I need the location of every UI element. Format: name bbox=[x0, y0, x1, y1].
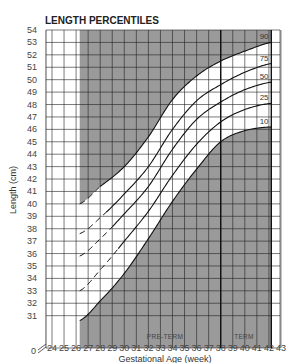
percentile-label-50: 50 bbox=[260, 72, 269, 81]
y-tick-label: 45 bbox=[27, 137, 37, 147]
percentile-label-25: 25 bbox=[260, 93, 269, 102]
shaded-regions bbox=[80, 30, 272, 348]
y-tick-label: 31 bbox=[27, 311, 37, 321]
y-tick-label: 40 bbox=[27, 199, 37, 209]
x-tick-label: 27 bbox=[83, 343, 93, 353]
y-tick-label: 48 bbox=[27, 100, 37, 110]
x-tick-label: 40 bbox=[240, 343, 250, 353]
x-tick-label: 32 bbox=[143, 343, 153, 353]
x-tick-label: 28 bbox=[95, 343, 105, 353]
x-tick-label: 43 bbox=[276, 343, 286, 353]
y-tick-label: 32 bbox=[27, 298, 37, 308]
x-tick-label: 26 bbox=[71, 343, 81, 353]
x-tick-label: 31 bbox=[131, 343, 141, 353]
x-tick-label: 36 bbox=[192, 343, 202, 353]
y-tick-label: 46 bbox=[27, 124, 37, 134]
percentile-labels: 9075502510 bbox=[260, 32, 269, 125]
y-tick-label: 38 bbox=[27, 224, 37, 234]
percentile-75-dashed bbox=[80, 212, 107, 233]
y-tick-label: 34 bbox=[27, 273, 37, 283]
y-tick-label: 47 bbox=[27, 112, 37, 122]
percentile-label-90: 90 bbox=[260, 32, 269, 41]
x-axis-label: Gestational Age (week) bbox=[118, 354, 211, 363]
x-tick-label: 39 bbox=[228, 343, 238, 353]
y-tick-label: 52 bbox=[27, 50, 37, 60]
x-tick-label: 42 bbox=[264, 343, 274, 353]
x-tick-label: 30 bbox=[119, 343, 129, 353]
x-tick-label: 38 bbox=[216, 343, 226, 353]
x-tick-label: 34 bbox=[167, 343, 177, 353]
x-tick-label: 35 bbox=[180, 343, 190, 353]
y-axis-break-label: 0 bbox=[31, 346, 36, 356]
preterm-label: PRE-TERM bbox=[147, 333, 183, 340]
length-percentiles-chart: LENGTH PERCENTILES 313233343536373839404… bbox=[0, 0, 298, 363]
y-tick-label: 42 bbox=[27, 174, 37, 184]
y-tick-label: 50 bbox=[27, 75, 37, 85]
y-tick-label: 37 bbox=[27, 236, 37, 246]
y-tick-label: 35 bbox=[27, 261, 37, 271]
y-tick-label: 41 bbox=[27, 186, 37, 196]
y-tick-label: 54 bbox=[27, 25, 37, 35]
term-label: TERM bbox=[234, 333, 254, 340]
y-tick-label: 33 bbox=[27, 286, 37, 296]
x-tick-label: 24 bbox=[47, 343, 57, 353]
chart-title: LENGTH PERCENTILES bbox=[45, 15, 159, 26]
percentile-label-75: 75 bbox=[260, 54, 269, 63]
percentile-label-10: 10 bbox=[260, 117, 269, 126]
x-tick-label: 25 bbox=[59, 343, 69, 353]
axis-break-icon bbox=[38, 344, 46, 353]
x-tick-label: 33 bbox=[155, 343, 165, 353]
y-tick-label: 44 bbox=[27, 149, 37, 159]
x-tick-label: 29 bbox=[107, 343, 117, 353]
y-tick-label: 53 bbox=[27, 37, 37, 47]
y-tick-label: 36 bbox=[27, 249, 37, 259]
y-axis-ticks: 3132333435363738394041424344454647484950… bbox=[27, 25, 37, 321]
y-tick-label: 51 bbox=[27, 62, 37, 72]
x-tick-label: 37 bbox=[204, 343, 214, 353]
y-tick-label: 43 bbox=[27, 162, 37, 172]
y-tick-label: 39 bbox=[27, 211, 37, 221]
y-axis-label: Length (cm) bbox=[8, 166, 18, 214]
y-tick-label: 49 bbox=[27, 87, 37, 97]
x-tick-label: 41 bbox=[252, 343, 262, 353]
